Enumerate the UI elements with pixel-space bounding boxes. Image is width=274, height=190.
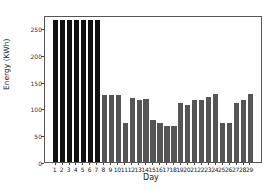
bar-day-20	[185, 105, 190, 162]
x-tick-mark	[117, 163, 118, 165]
bar-day-2	[60, 20, 65, 162]
x-tick-mark	[159, 163, 160, 165]
x-tick-mark	[69, 163, 70, 165]
x-tick-mark	[187, 163, 188, 165]
x-tick-mark	[215, 163, 216, 165]
bar-day-15	[150, 120, 155, 162]
x-tick-mark	[152, 163, 153, 165]
plot-area	[44, 16, 262, 163]
x-tick-label: 7	[95, 166, 99, 173]
x-tick-mark	[180, 163, 181, 165]
bar-day-28	[241, 100, 246, 162]
bar-day-12	[130, 98, 135, 162]
bar-day-29	[248, 94, 253, 162]
x-tick-mark	[208, 163, 209, 165]
bar-day-17	[164, 126, 169, 162]
x-tick-mark	[236, 163, 237, 165]
x-tick-mark	[201, 163, 202, 165]
x-tick-mark	[82, 163, 83, 165]
bar-day-25	[220, 123, 225, 162]
x-tick-label: 2	[60, 166, 64, 173]
x-tick-mark	[89, 163, 90, 165]
bar-day-23	[206, 97, 211, 162]
x-tick-label: 8	[102, 166, 106, 173]
bar-day-5	[81, 20, 86, 162]
x-tick-mark	[62, 163, 63, 165]
x-tick-label: 3	[67, 166, 71, 173]
x-tick-mark	[194, 163, 195, 165]
bar-day-18	[171, 126, 176, 162]
x-tick-mark	[173, 163, 174, 165]
x-tick-label: 5	[81, 166, 85, 173]
x-tick-mark	[131, 163, 132, 165]
x-tick-mark	[229, 163, 230, 165]
bar-chart-figure: 050100150200250 123456789101112131415161…	[0, 0, 274, 190]
x-tick-mark	[166, 163, 167, 165]
x-tick-mark	[110, 163, 111, 165]
bar-day-22	[199, 100, 204, 162]
bar-day-10	[116, 95, 121, 162]
x-tick-mark	[103, 163, 104, 165]
x-tick-mark	[75, 163, 76, 165]
bar-day-21	[192, 100, 197, 162]
x-tick-mark	[138, 163, 139, 165]
bar-day-27	[234, 103, 239, 162]
bar-day-24	[213, 94, 218, 162]
bar-day-1	[53, 20, 58, 162]
bar-day-9	[109, 95, 114, 162]
bar-day-6	[88, 20, 93, 162]
x-axis-label: Day	[143, 173, 159, 182]
bar-day-4	[74, 20, 79, 162]
x-tick-label: 6	[88, 166, 92, 173]
x-tick-mark	[222, 163, 223, 165]
x-tick-mark	[249, 163, 250, 165]
bar-day-26	[227, 123, 232, 162]
x-tick-label: 9	[109, 166, 113, 173]
bar-day-7	[95, 20, 100, 162]
x-tick-label: 1	[53, 166, 57, 173]
x-tick-mark	[243, 163, 244, 165]
x-tick-mark	[55, 163, 56, 165]
bar-series	[45, 17, 261, 162]
x-tick-mark	[96, 163, 97, 165]
bar-day-19	[178, 103, 183, 162]
x-tick-label: 4	[74, 166, 78, 173]
x-tick-mark	[124, 163, 125, 165]
bar-day-14	[143, 99, 148, 162]
bar-day-3	[67, 20, 72, 162]
x-tick-label: 29	[246, 166, 253, 173]
x-tick-mark	[145, 163, 146, 165]
bar-day-13	[137, 100, 142, 162]
bar-day-11	[123, 123, 128, 162]
bar-day-8	[102, 95, 107, 162]
bar-day-16	[157, 123, 162, 162]
y-tick-mark	[41, 163, 44, 164]
y-axis-label: Energy (KWh)	[2, 39, 11, 90]
